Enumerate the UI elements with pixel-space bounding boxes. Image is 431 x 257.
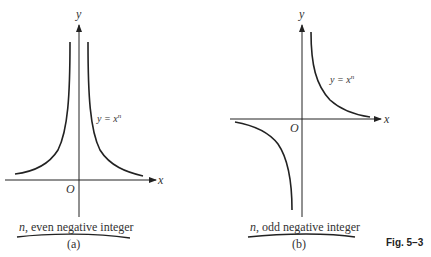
y-axis-label: y (75, 7, 82, 21)
x-axis-label: x (383, 112, 390, 126)
panel-b: y x O y = xn n, odd negative integer (b) (230, 7, 390, 251)
curve-label: y = xn (96, 112, 122, 124)
panel-tag: (a) (67, 237, 80, 251)
y-axis-label: y (298, 7, 305, 21)
x-axis-label: x (157, 173, 164, 187)
caption: n, even negative integer (19, 220, 134, 234)
figure-5-3: y x O y = xn n, even negative integer (a… (0, 0, 431, 257)
panel-a: y x O y = xn n, even negative integer (a… (5, 7, 164, 251)
figure-label: Fig. 5–3 (386, 237, 424, 248)
origin-label: O (66, 182, 75, 196)
curve-label: y = xn (329, 73, 355, 85)
origin-label: O (290, 121, 299, 135)
caption: n, odd negative integer (250, 220, 360, 234)
curve-left-branch (15, 42, 70, 174)
curve-quadrant-3-branch (235, 122, 292, 210)
curve-right-branch (88, 42, 143, 176)
panel-tag: (b) (292, 237, 306, 251)
